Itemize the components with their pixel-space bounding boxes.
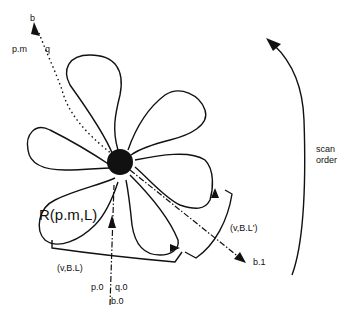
label-vbl-prime: (v,B.L') (230, 223, 258, 233)
arrowhead-b (31, 22, 40, 36)
petal-right (135, 154, 212, 208)
label-p0: p.0 (91, 282, 104, 292)
label-q: q (45, 44, 50, 54)
label-vbl: (v,B.L) (57, 263, 83, 273)
label-b1: b.1 (253, 257, 266, 267)
petal-top-right (128, 91, 206, 155)
label-region: R(p.m,L) (39, 206, 97, 223)
label-order: order (316, 155, 337, 165)
arrowhead-b0 (108, 215, 116, 228)
label-b0: b.0 (111, 296, 124, 306)
center-vertex (107, 149, 133, 175)
bracket-vbl (52, 240, 182, 262)
label-q0: q.0 (115, 282, 128, 292)
arrowhead-b1 (234, 252, 246, 263)
label-scan: scan (316, 144, 335, 154)
petal-top (67, 55, 122, 155)
scan-order-arrow (274, 45, 305, 275)
bracket-vbl-prime (185, 190, 232, 258)
label-pm: p.m (12, 44, 27, 54)
label-b: b (30, 13, 35, 23)
petal-left (27, 128, 110, 170)
flower-diagram: b p.m q R(p.m,L) (v,B.L) (v,B.L') p.0 q.… (0, 0, 353, 318)
dashdot-line-b0 (110, 185, 114, 305)
dashdot-line-b1 (130, 170, 240, 258)
